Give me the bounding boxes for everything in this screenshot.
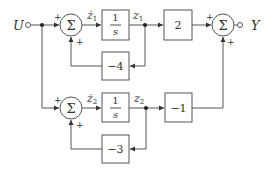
- output-label: Y: [251, 18, 261, 33]
- junction-dot: [143, 23, 147, 27]
- gainm1-output-line: [192, 37, 223, 108]
- summer-2-symbol: Σ: [66, 101, 75, 116]
- summer-1-sign-top: +: [54, 12, 62, 22]
- summer-1-sign-bottom: +: [76, 37, 84, 47]
- z1-label: z1: [132, 9, 143, 23]
- block-diagram: U Y Σ Σ Σ + + + + + + 1 s 2 −4 1 s −1 −3…: [0, 0, 277, 173]
- z1dot-label: ż1: [86, 9, 97, 23]
- feedback1-line: [130, 25, 145, 66]
- summer-2-sign-top: +: [54, 95, 62, 105]
- junction-dot: [40, 23, 44, 27]
- z2dot-label: ż2: [86, 92, 97, 106]
- feedback-minus4-label: −4: [107, 60, 123, 73]
- summer-3-symbol: Σ: [218, 18, 227, 33]
- integrator-1-denominator: s: [113, 26, 118, 37]
- summer-3-sign-bottom: +: [227, 37, 235, 47]
- feedback-minus3-label: −3: [107, 143, 123, 156]
- integrator-1-numerator: 1: [112, 12, 118, 23]
- output-terminal: [238, 23, 243, 28]
- z2-label: z2: [133, 92, 144, 106]
- input-label: U: [13, 18, 25, 33]
- summer-1-symbol: Σ: [66, 18, 75, 33]
- integrator-2-numerator: 1: [112, 95, 118, 106]
- summer-3-sign-left: +: [206, 12, 214, 22]
- feedback2-line: [130, 108, 146, 149]
- integrator-2-denominator: s: [113, 109, 118, 120]
- summer-2-sign-bottom: +: [76, 120, 84, 130]
- gain-2-label: 2: [175, 19, 182, 32]
- gain-minus1-label: −1: [170, 102, 186, 115]
- junction-dot: [144, 106, 148, 110]
- input-terminal: [26, 23, 31, 28]
